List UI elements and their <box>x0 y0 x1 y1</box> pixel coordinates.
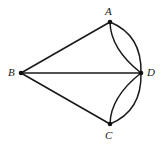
figure-canvas <box>0 0 162 148</box>
vertex-dot-B <box>19 71 24 76</box>
vertex-dot-D <box>139 71 144 76</box>
vertex-dot-A <box>108 20 113 25</box>
vertex-label-C: C <box>105 130 112 141</box>
edge-B-C <box>21 73 110 124</box>
vertex-label-D: D <box>147 67 155 78</box>
vertex-label-B: B <box>8 67 15 78</box>
edge-B-A <box>21 22 110 73</box>
vertex-label-A: A <box>105 6 112 17</box>
vertex-dot-C <box>108 122 113 127</box>
arc-A-D-outer <box>110 22 141 73</box>
arc-C-D-outer <box>110 73 141 124</box>
geometric-figure: A B C D <box>0 0 162 148</box>
